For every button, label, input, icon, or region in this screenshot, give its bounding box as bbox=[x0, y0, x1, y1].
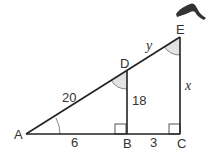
right-angle-C bbox=[169, 124, 180, 134]
point-label-E: E bbox=[176, 22, 185, 37]
length-label-AD: 20 bbox=[62, 90, 76, 105]
angle-arc-A bbox=[56, 118, 60, 134]
length-label-EC: x bbox=[184, 78, 192, 93]
segment-AE bbox=[26, 37, 180, 134]
running-figure-icon bbox=[176, 3, 206, 20]
length-label-DE: y bbox=[144, 38, 153, 53]
length-label-DB: 18 bbox=[132, 93, 146, 108]
point-label-A: A bbox=[14, 127, 23, 142]
right-angle-B bbox=[115, 124, 126, 134]
point-label-C: C bbox=[177, 136, 186, 151]
angle-shade-D bbox=[111, 71, 127, 89]
length-label-BC: 3 bbox=[150, 135, 157, 150]
length-label-AB: 6 bbox=[71, 135, 78, 150]
similar-triangles-diagram: A B C D E 20 18 6 3 y x bbox=[0, 0, 213, 152]
point-label-B: B bbox=[123, 136, 132, 151]
point-label-D: D bbox=[120, 56, 129, 71]
